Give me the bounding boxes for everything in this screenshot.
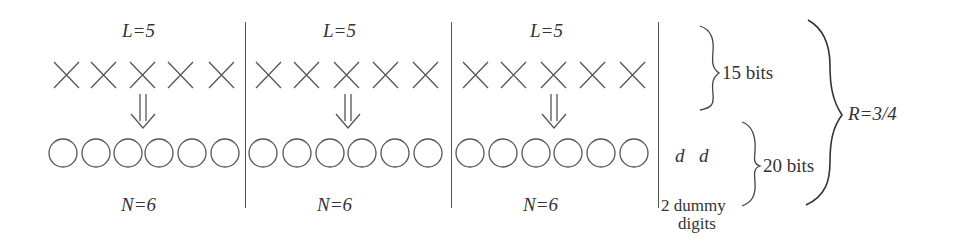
cross-icon (580, 62, 605, 88)
dummy-symbol-2: d (699, 145, 709, 167)
circle-icon (283, 139, 311, 167)
double-down-arrow-icon (131, 94, 155, 128)
double-down-arrow-icon (542, 94, 566, 128)
cross-icon (209, 62, 234, 88)
cross-icon (373, 62, 398, 88)
brace-icon-15-bits (700, 26, 719, 110)
diagram-graphics (0, 0, 954, 245)
cross-icon (256, 62, 281, 88)
block-1-output-symbols (49, 139, 239, 167)
rate-label: R=3/4 (848, 103, 897, 125)
cross-icon (334, 62, 359, 88)
double-down-arrow-icon (336, 94, 360, 128)
cross-icon (130, 62, 155, 88)
circle-icon (489, 139, 517, 167)
cross-icon (294, 62, 319, 88)
cross-icon (54, 62, 79, 88)
cross-icon (91, 62, 116, 88)
block-2-input-symbols (256, 62, 438, 88)
circle-icon (554, 139, 582, 167)
circle-icon (211, 139, 239, 167)
circle-icon (522, 139, 550, 167)
cross-icon (463, 62, 488, 88)
circle-icon (620, 139, 648, 167)
block-3-input-symbols (463, 62, 645, 88)
cross-icon (620, 62, 645, 88)
circle-icon (249, 139, 277, 167)
input-bits-label: 15 bits (722, 62, 773, 84)
block-2-output-symbols (249, 139, 442, 167)
circle-icon (316, 139, 344, 167)
circle-icon (49, 139, 77, 167)
cross-icon (413, 62, 438, 88)
block-3-output-symbols (456, 139, 648, 167)
circle-icon (114, 139, 142, 167)
circle-icon (178, 139, 206, 167)
dummy-caption-line-1: 2 dummy (661, 196, 726, 216)
cross-icon (541, 62, 566, 88)
circle-icon (348, 139, 376, 167)
circle-icon (381, 139, 409, 167)
dummy-symbol-1: d (675, 145, 685, 167)
output-bits-label: 20 bits (763, 155, 814, 177)
circle-icon (587, 139, 615, 167)
circle-icon (456, 139, 484, 167)
brace-icon-20-bits (742, 122, 760, 206)
brace-icon-rate (806, 20, 842, 205)
circle-icon (82, 139, 110, 167)
circle-icon (145, 139, 173, 167)
circle-icon (414, 139, 442, 167)
cross-icon (501, 62, 526, 88)
dummy-caption-line-2: digits (678, 214, 716, 234)
cross-icon (168, 62, 193, 88)
block-1-input-symbols (54, 62, 234, 88)
